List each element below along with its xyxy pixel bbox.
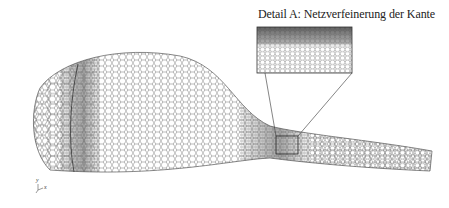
coordinate-axes-icon bbox=[36, 184, 43, 193]
detail-inset bbox=[257, 27, 352, 73]
axis-label-y: y bbox=[36, 177, 39, 183]
mesh-figure bbox=[0, 0, 449, 208]
leader-line-right bbox=[298, 73, 352, 136]
mesh-body bbox=[0, 40, 449, 180]
axis-label-x: x bbox=[44, 184, 47, 190]
